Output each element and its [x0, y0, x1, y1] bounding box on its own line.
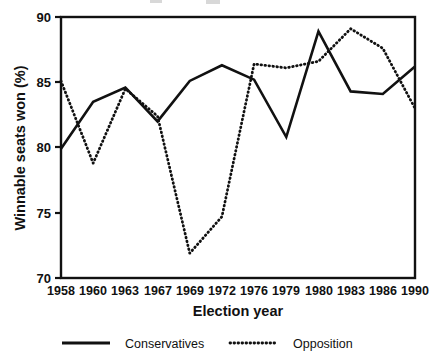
chart-canvas: 90 85 80 75 70 Winnable seats won (%) 19… — [0, 0, 443, 363]
line-chart: 90 85 80 75 70 Winnable seats won (%) 19… — [0, 0, 443, 363]
plot-frame — [61, 17, 415, 278]
y-tick-label-85: 85 — [37, 75, 51, 90]
x-tick-label-1969: 1969 — [176, 284, 204, 298]
x-tick-label-1972: 1972 — [208, 284, 236, 298]
series-line-opposition — [61, 29, 415, 253]
y-tick-label-90: 90 — [37, 10, 51, 25]
x-tick-label-1960: 1960 — [79, 284, 107, 298]
x-tick-label-1983: 1983 — [337, 284, 365, 298]
series-line-conservatives — [61, 31, 415, 148]
x-tick-label-1958: 1958 — [47, 284, 75, 298]
x-tick-label-1963: 1963 — [111, 284, 139, 298]
y-axis-title: Winnable seats won (%) — [12, 65, 28, 230]
scan-artifact — [206, 0, 220, 4]
x-tick-label-1976: 1976 — [240, 284, 268, 298]
x-tick-label-1979: 1979 — [272, 284, 300, 298]
y-tick-label-75: 75 — [37, 206, 51, 221]
legend-label-opposition: Opposition — [293, 337, 353, 351]
x-tick-label-1967: 1967 — [144, 284, 172, 298]
legend-label-conservatives: Conservatives — [125, 337, 204, 351]
x-tick-label-1980: 1980 — [305, 284, 333, 298]
x-tick-label-1990: 1990 — [401, 284, 429, 298]
chart-legend: Conservatives Opposition — [62, 337, 353, 351]
x-tick-label-1986: 1986 — [369, 284, 397, 298]
y-tick-label-80: 80 — [37, 140, 51, 155]
scan-artifact — [150, 0, 162, 3]
x-axis-title: Election year — [193, 303, 284, 319]
